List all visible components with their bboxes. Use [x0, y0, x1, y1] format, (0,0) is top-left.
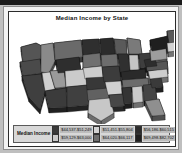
legend-swatch [135, 134, 142, 142]
state-face[interactable]: Iowa [101, 54, 118, 67]
legend: Median Income $44,537-$51,249$59,129-$63… [13, 125, 170, 143]
legend-column: $44,537-$51,249$59,129-$63,000 [52, 127, 92, 141]
report-panel: Median Income by State WashingtonOregonC… [3, 6, 179, 150]
legend-label: $44,537-$51,249 [60, 127, 92, 133]
state-face[interactable]: North Dakota [82, 39, 100, 55]
legend-title: Median Income [16, 132, 52, 137]
chart-title: Median Income by State [9, 15, 175, 21]
chart-frame: Median Income by State WashingtonOregonC… [8, 11, 176, 147]
legend-columns: $44,537-$51,249$59,129-$63,000$51,451-$5… [52, 127, 175, 141]
legend-entry[interactable]: $59,129-$63,000 [52, 135, 92, 142]
state-face[interactable]: Indiana [129, 55, 139, 70]
legend-column: $51,451-$55,804$64,020-$66,117 [93, 127, 133, 141]
legend-column: $56,186-$60,515$69,498-$82,702 [135, 127, 175, 141]
legend-entry[interactable]: $56,186-$60,515 [135, 127, 175, 134]
legend-label: $59,129-$63,000 [60, 135, 92, 141]
legend-label: $69,498-$82,702 [143, 135, 175, 141]
state-face[interactable]: Oregon [20, 59, 42, 76]
state-face[interactable]: Alabama [132, 86, 143, 103]
legend-swatch [93, 134, 100, 142]
state-face[interactable]: Arizona [45, 88, 67, 108]
state-face[interactable]: Mississippi [122, 87, 132, 104]
state-face[interactable]: Michigan [127, 38, 142, 54]
legend-entry[interactable]: $44,537-$51,249 [52, 127, 92, 134]
state-face[interactable]: Florida [145, 99, 165, 116]
state-face[interactable]: Wisconsin [114, 39, 127, 54]
map-state-faces[interactable]: WashingtonOregonCaliforniaIdahoNevadaUta… [20, 30, 174, 121]
screenshot-root: Median Income by State WashingtonOregonC… [0, 0, 182, 153]
legend-label: $64,020-$66,117 [101, 135, 133, 141]
state-face[interactable]: Minnesota [100, 38, 115, 55]
legend-entry[interactable]: $69,498-$82,702 [135, 135, 175, 142]
map-stage[interactable]: WashingtonOregonCaliforniaIdahoNevadaUta… [9, 26, 174, 124]
state-face[interactable]: Illinois [118, 54, 130, 72]
state-face[interactable]: South Dakota [83, 53, 101, 68]
legend-swatch [52, 134, 59, 142]
state-face[interactable]: New Mexico [67, 85, 89, 107]
legend-label: $56,186-$60,515 [143, 127, 175, 133]
legend-entry[interactable]: $51,451-$55,804 [93, 127, 133, 134]
state-face[interactable]: Missouri [102, 66, 121, 82]
state-face[interactable]: Louisiana [109, 94, 125, 107]
legend-label: $51,451-$55,804 [101, 127, 133, 133]
state-face[interactable]: Kansas [86, 77, 106, 90]
legend-entry[interactable]: $64,020-$66,117 [93, 135, 133, 142]
window-top-strip [0, 0, 182, 5]
state-face[interactable]: Arkansas [105, 81, 122, 95]
state-face[interactable]: New England [167, 42, 174, 52]
state-face[interactable]: Nebraska [83, 66, 103, 79]
us-choropleth-map[interactable]: WashingtonOregonCaliforniaIdahoNevadaUta… [9, 26, 174, 124]
